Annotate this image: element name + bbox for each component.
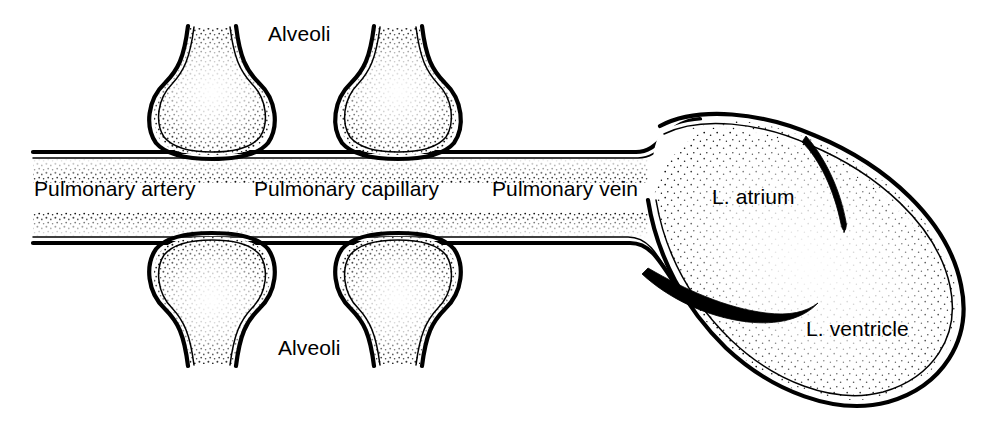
label-alveoli-top: Alveoli [268, 22, 331, 45]
vessel-bottom-stipple [33, 212, 648, 238]
label-left-atrium: L. atrium [712, 185, 795, 208]
label-pulmonary-vein: Pulmonary vein [492, 177, 638, 200]
pulmonary-circulation-figure: Alveoli Alveoli Pulmonary artery Pulmona… [0, 0, 985, 427]
label-pulmonary-capillary: Pulmonary capillary [254, 177, 440, 200]
label-pulmonary-artery: Pulmonary artery [34, 177, 196, 200]
pulmonary-circulation-diagram: Alveoli Alveoli Pulmonary artery Pulmona… [0, 0, 985, 427]
label-alveoli-bottom: Alveoli [278, 336, 341, 359]
label-left-ventricle: L. ventricle [806, 317, 909, 340]
